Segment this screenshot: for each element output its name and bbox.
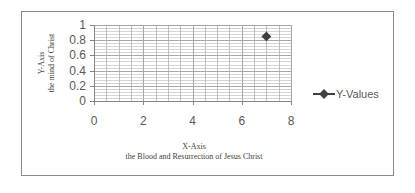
y-axis-sublabel: the mind of Christ — [47, 33, 56, 92]
y-axis-title: Y-Axis the mind of Christ — [37, 33, 56, 92]
y-tick-label: 0.8 — [69, 33, 86, 47]
x-tick-label: 4 — [189, 114, 196, 128]
y-tick-label: 0 — [79, 94, 86, 108]
x-axis-sublabel: the Blood and Resurrection of Jesus Chri… — [126, 152, 264, 161]
y-tick-label: 0.6 — [69, 48, 86, 62]
legend: Y-Values — [313, 88, 379, 100]
x-axis-label: X-Axis — [182, 142, 206, 151]
data-points — [261, 31, 271, 41]
legend-label: Y-Values — [336, 88, 379, 100]
x-tick-label: 8 — [288, 114, 295, 128]
legend-diamond-icon — [319, 89, 329, 99]
y-axis-ticks: 00.20.40.60.81 — [69, 18, 94, 108]
x-tick-label: 2 — [140, 114, 147, 128]
x-axis-ticks: 02468 — [91, 101, 295, 128]
y-tick-label: 1 — [79, 18, 86, 32]
plot-grid — [91, 25, 292, 104]
x-tick-label: 6 — [238, 114, 245, 128]
y-axis-label: Y-Axis — [37, 52, 46, 75]
y-tick-label: 0.4 — [69, 64, 86, 78]
data-point-diamond-icon — [261, 31, 271, 41]
x-tick-label: 0 — [91, 114, 98, 128]
y-tick-label: 0.2 — [69, 79, 86, 93]
chart-svg: 00.20.40.60.81 02468 Y-Axis the mind of … — [0, 0, 415, 193]
